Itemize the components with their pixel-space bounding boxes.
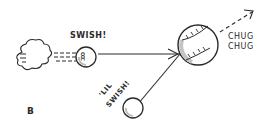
- outgoing-arrow: [220, 10, 253, 32]
- chug-label-2: CHUG: [228, 42, 254, 51]
- swish-label: SWISH!: [70, 31, 107, 40]
- motion-lines: [54, 53, 76, 61]
- panel-label: B: [27, 106, 34, 116]
- small-ball-path: [138, 54, 180, 104]
- ball-swish: [76, 47, 96, 67]
- collision-diagram: [0, 0, 272, 128]
- chug-label-1: CHUG: [228, 32, 254, 41]
- ball-lil-swish: [123, 98, 143, 118]
- baseball-icon: [178, 25, 218, 65]
- path-arrow: [98, 49, 180, 59]
- ball-letters: CCC: [80, 52, 86, 60]
- cloud-puff-icon: [17, 40, 52, 70]
